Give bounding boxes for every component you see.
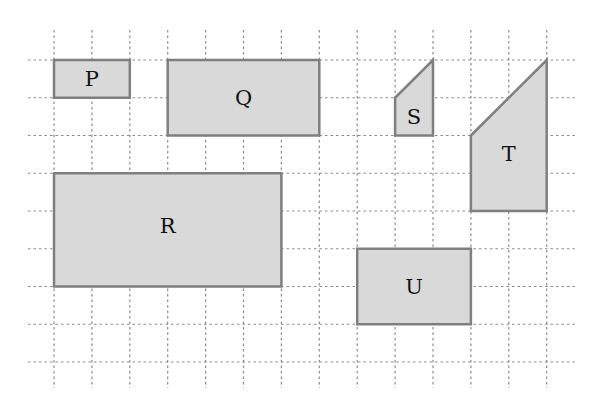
shape-grid-diagram: PQSTRU <box>0 0 598 404</box>
shape-label: S <box>407 105 421 129</box>
shape-p: P <box>54 60 130 98</box>
shape-label: P <box>85 67 99 91</box>
shape-label: U <box>405 275 423 299</box>
shape-s: S <box>395 60 433 136</box>
shape-label: T <box>502 142 516 166</box>
shape-t: T <box>471 60 547 211</box>
shape-u: U <box>357 249 471 325</box>
shape-label: Q <box>235 86 252 110</box>
shape-r: R <box>54 173 281 286</box>
shape-t-trapezoid <box>471 60 547 211</box>
shapes-layer: PQSTRU <box>54 60 547 324</box>
shape-q: Q <box>168 60 320 136</box>
shape-label: R <box>160 214 177 238</box>
